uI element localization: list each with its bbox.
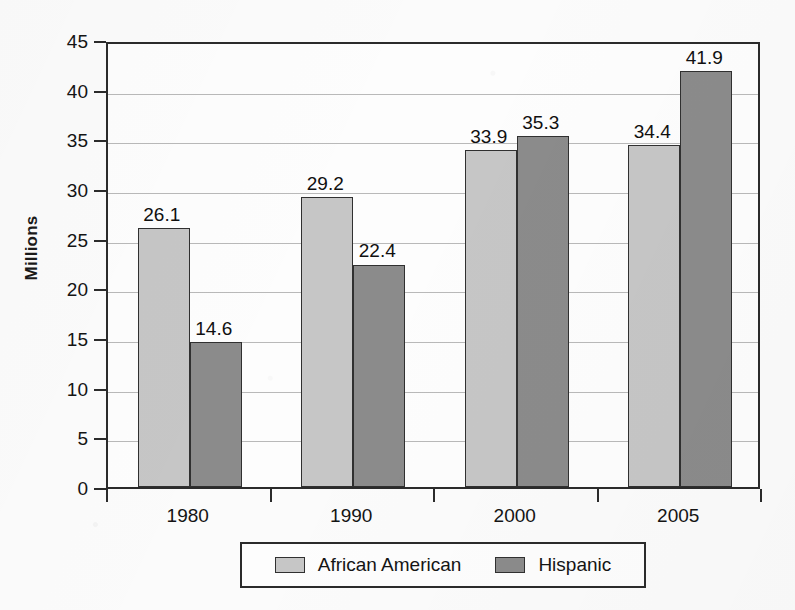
bar-value-label: 29.2 [307,173,344,195]
y-tick-label: 35 [26,130,88,152]
legend-swatch-icon [495,557,525,573]
y-tick-mark [94,438,106,440]
legend-label: Hispanic [538,554,611,576]
x-tick-mark [597,489,599,502]
y-tick-mark [94,240,106,242]
y-tick-mark [94,140,106,142]
bar-african-american-2000 [465,150,517,487]
y-tick-label: 40 [26,81,88,103]
legend-entry-african-american: African American [275,554,462,576]
bar-hispanic-1980 [190,342,242,487]
legend-label: African American [318,554,462,576]
bar-value-label: 33.9 [470,126,507,148]
x-tick-mark [106,489,108,502]
y-tick-mark [94,339,106,341]
bar-value-label: 22.4 [359,240,396,262]
y-tick-label: 45 [26,31,88,53]
y-tick-label: 30 [26,180,88,202]
bar-hispanic-1990 [353,265,405,488]
x-tick-label-2000: 2000 [494,505,536,527]
x-tick-mark [760,489,762,502]
x-tick-label-1980: 1980 [167,505,209,527]
y-tick-label: 5 [26,428,88,450]
legend-swatch-icon [275,557,305,573]
y-tick-mark [94,488,106,490]
y-tick-label: 25 [26,230,88,252]
plot-area [106,42,760,489]
y-tick-mark [94,289,106,291]
gridline [108,143,758,144]
bar-african-american-2005 [628,145,680,487]
y-tick-mark [94,91,106,93]
legend-entry-hispanic: Hispanic [495,554,611,576]
bar-value-label: 14.6 [195,318,232,340]
legend: African AmericanHispanic [240,542,646,588]
bar-value-label: 35.3 [522,112,559,134]
y-tick-label: 10 [26,379,88,401]
bar-african-american-1990 [301,197,353,487]
y-tick-mark [94,190,106,192]
bar-hispanic-2005 [680,71,732,487]
y-tick-label: 15 [26,329,88,351]
y-tick-label: 20 [26,279,88,301]
y-tick-mark [94,389,106,391]
x-tick-mark [433,489,435,502]
y-tick-mark [94,41,106,43]
x-tick-label-1990: 1990 [330,505,372,527]
bar-chart-figure: Millions 051015202530354045 26.114.629.2… [0,0,795,610]
bar-value-label: 26.1 [143,204,180,226]
gridline [108,94,758,95]
bar-value-label: 34.4 [634,121,671,143]
bar-value-label: 41.9 [686,47,723,69]
y-tick-label: 0 [26,478,88,500]
bar-hispanic-2000 [517,136,569,487]
bar-african-american-1980 [138,228,190,487]
x-tick-mark [270,489,272,502]
x-tick-label-2005: 2005 [657,505,699,527]
